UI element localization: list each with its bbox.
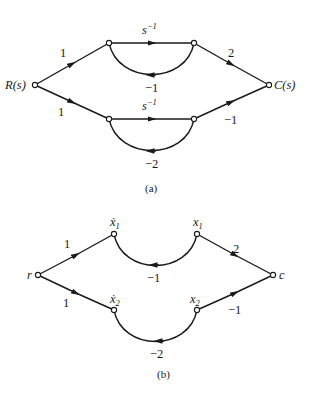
label-x2: x2 xyxy=(189,292,201,308)
gain-top-to-c-a: 2 xyxy=(228,46,234,60)
gain-x2-feedback: −2 xyxy=(150,347,163,361)
gain-x1-feedback: −1 xyxy=(147,271,160,285)
gain-top-forward-a: s−1 xyxy=(142,21,157,37)
node-top-left-a xyxy=(106,40,111,45)
node-bottom-right-a xyxy=(191,116,196,121)
gain-top-feedback-a: −1 xyxy=(145,81,158,95)
gain-bottom-feedback-a: −2 xyxy=(145,157,158,171)
caption-b: (b) xyxy=(157,368,170,381)
label-x1: x1 xyxy=(192,215,203,231)
gain-bottom-to-c-a: −1 xyxy=(224,113,237,127)
node-output-b xyxy=(270,272,275,277)
gain-r-to-bottom-a: 1 xyxy=(58,105,64,119)
edge-r-to-x2dot xyxy=(38,275,114,310)
node-x2 xyxy=(194,307,199,312)
label-input-b: r xyxy=(27,268,32,282)
gain-r-to-top-a: 1 xyxy=(60,46,66,60)
diagram-b: r c ẋ1 x1 ẋ2 x2 1 1 −1 −2 2 −1 (b) xyxy=(27,215,285,381)
signal-flow-graphs: R(s) C(s) 1 1 s−1 −1 s−1 −2 2 −1 (a) r c… xyxy=(0,0,314,400)
label-x1dot: ẋ1 xyxy=(109,215,120,231)
gain-x1-to-c: 2 xyxy=(233,242,239,256)
edge-bottom-feedback xyxy=(109,119,194,151)
node-x1 xyxy=(194,231,199,236)
node-bottom-left-a xyxy=(106,116,111,121)
gain-x2-to-c: −1 xyxy=(228,303,241,317)
node-x1dot xyxy=(111,231,116,236)
edge-x2-feedback xyxy=(114,310,197,342)
node-x2dot xyxy=(111,307,116,312)
node-output-a xyxy=(266,82,271,87)
diagram-a: R(s) C(s) 1 1 s−1 −1 s−1 −2 2 −1 (a) xyxy=(4,21,296,195)
gain-r-to-x2dot: 1 xyxy=(63,296,69,310)
edge-r-to-x1dot xyxy=(38,234,114,275)
caption-a: (a) xyxy=(145,182,158,195)
label-output-b: c xyxy=(279,268,285,282)
node-input-a xyxy=(32,82,37,87)
gain-bottom-forward-a: s−1 xyxy=(142,97,157,113)
label-x2dot: ẋ2 xyxy=(109,292,121,308)
label-output-a: C(s) xyxy=(274,78,296,92)
node-top-right-a xyxy=(191,40,196,45)
edge-top-feedback xyxy=(109,43,194,75)
label-input-a: R(s) xyxy=(4,78,26,92)
edge-r-to-bottom xyxy=(35,85,109,119)
edge-x1-feedback xyxy=(114,234,197,266)
gain-r-to-x1dot: 1 xyxy=(64,237,70,251)
node-input-b xyxy=(35,272,40,277)
edge-r-to-top xyxy=(35,43,109,85)
